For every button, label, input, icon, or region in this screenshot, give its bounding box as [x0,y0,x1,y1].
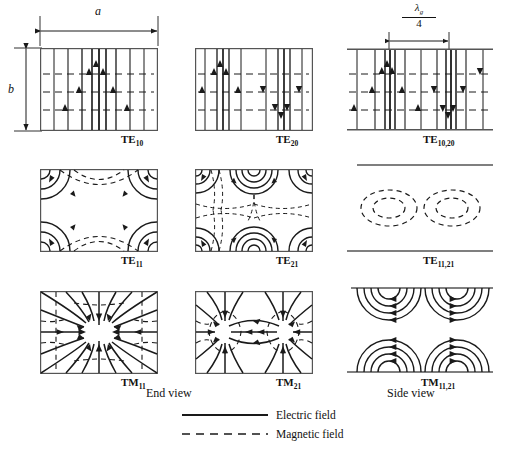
dashed-line-swatch [182,429,268,439]
waveguide-mode-figure: a b λg 4 TE10 [0,0,507,454]
mode-label-te11: TE11 [121,254,143,269]
cell-tm11-diagram [40,291,158,374]
legend-entry-electric-field: Electric field [182,409,336,421]
height-dimension-label: b [8,82,14,97]
fraction-denominator: 4 [400,18,438,30]
cell-te1121-diagram [345,163,495,255]
end-view-caption: End view [146,386,192,401]
legend-entry-magnetic-field: Magnetic field [182,428,343,440]
mode-label-tm11: TM11 [121,376,146,391]
cell-tm21-diagram [195,291,313,374]
width-dimension-label: a [95,4,101,19]
side-view-caption: Side view [387,386,435,401]
mode-label-te10: TE10 [121,133,143,148]
mode-label-te20: TE20 [276,133,298,148]
lambda-g-numerator: λg [400,2,438,17]
cell-te21-diagram [195,169,313,252]
mode-label-tm21: TM21 [276,376,301,391]
quarter-guide-wavelength-label: λg 4 [400,2,438,29]
cell-te11-diagram [40,169,158,252]
cell-te1020-diagram [345,48,495,131]
cell-te10-diagram [40,48,158,131]
solid-line-swatch [182,410,268,420]
cell-te20-diagram [195,48,313,131]
legend-label-electric-field: Electric field [276,409,336,421]
mode-label-te1121: TE11,21 [423,254,454,269]
cell-tm1121-diagram [345,286,495,376]
mode-label-te21: TE21 [276,254,298,269]
legend-label-magnetic-field: Magnetic field [276,428,343,440]
mode-label-te1020: TE10,20 [423,133,455,148]
